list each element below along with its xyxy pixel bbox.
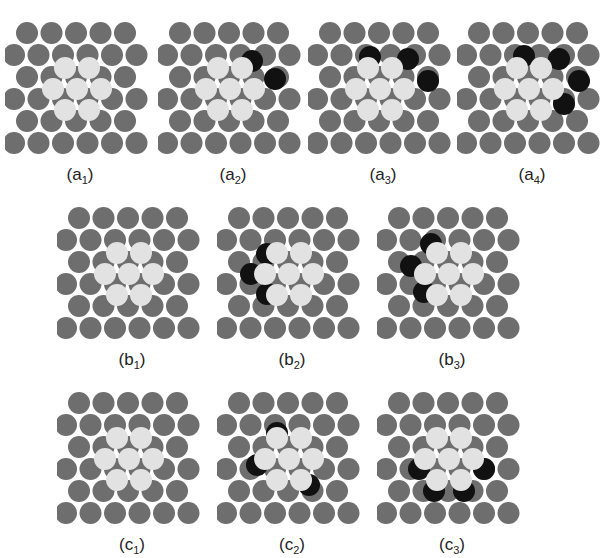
island-atom (130, 242, 152, 264)
substrate-atom (326, 295, 348, 317)
substrate-atom (289, 502, 311, 524)
substrate-atom (93, 207, 115, 229)
substrate-atom (16, 66, 38, 88)
panel-label: (a3) (308, 165, 458, 186)
island-atom (130, 284, 152, 306)
island-atom (414, 263, 436, 285)
substrate-atom (313, 317, 335, 339)
island-atom (66, 78, 88, 100)
island-atom (357, 57, 379, 79)
panel-b3: (b3) (377, 205, 527, 375)
substrate-atom (368, 22, 390, 44)
substrate-atom (437, 207, 459, 229)
island-atom (542, 78, 564, 100)
substrate-atom (338, 317, 360, 339)
substrate-atom (277, 207, 299, 229)
substrate-atom (429, 44, 451, 66)
substrate-atom (400, 317, 422, 339)
substrate-atom (486, 207, 508, 229)
island-atom (106, 469, 128, 491)
panel-label: (b3) (377, 350, 527, 371)
label-subscript: 3 (385, 174, 391, 186)
island-atom (450, 284, 472, 306)
substrate-atom (114, 22, 136, 44)
substrate-atom (129, 317, 151, 339)
island-atom (426, 284, 448, 306)
substrate-atom (217, 273, 237, 295)
substrate-atom (254, 132, 276, 154)
island-atom (530, 57, 552, 79)
substrate-atom (377, 273, 397, 295)
substrate-atom (253, 392, 275, 414)
substrate-atom (498, 317, 520, 339)
substrate-atom (473, 502, 495, 524)
substrate-atom (413, 207, 435, 229)
island-atom (494, 78, 516, 100)
substrate-atom (158, 44, 178, 66)
substrate-atom (217, 317, 237, 339)
substrate-atom (338, 458, 360, 480)
substrate-atom (417, 22, 439, 44)
island-atom (207, 57, 229, 79)
island-atom (254, 448, 276, 470)
substrate-atom (16, 22, 38, 44)
island-atom (381, 57, 403, 79)
panel-c1: (c1) (57, 390, 207, 558)
substrate-atom (355, 132, 377, 154)
island-atom (290, 284, 312, 306)
label-subscript: 1 (134, 359, 140, 371)
substrate-atom (468, 66, 490, 88)
substrate-atom (473, 414, 495, 436)
substrate-atom (169, 66, 191, 88)
label-letter: c (285, 535, 294, 554)
substrate-atom (553, 132, 575, 154)
island-atom (266, 284, 288, 306)
island-atom (450, 469, 472, 491)
substrate-atom (308, 88, 328, 110)
substrate-atom (498, 502, 520, 524)
label-letter: b (124, 350, 133, 369)
label-subscript: 2 (293, 544, 299, 556)
label-letter: a (225, 165, 234, 184)
island-atom (290, 427, 312, 449)
substrate-atom (279, 88, 301, 110)
substrate-atom (65, 22, 87, 44)
substrate-atom (264, 317, 286, 339)
substrate-atom (126, 88, 148, 110)
island-atom (369, 78, 391, 100)
substrate-atom (517, 22, 539, 44)
substrate-atom (228, 207, 250, 229)
island-atom (357, 99, 379, 121)
substrate-atom (178, 273, 200, 295)
substrate-atom (217, 502, 237, 524)
label-subscript: 2 (235, 174, 241, 186)
substrate-atom (178, 229, 200, 251)
substrate-atom (480, 132, 502, 154)
island-atom (518, 78, 540, 100)
substrate-atom (468, 110, 490, 132)
substrate-atom (377, 317, 397, 339)
substrate-atom (142, 207, 164, 229)
island-atom (381, 99, 403, 121)
island-atom (393, 78, 415, 100)
substrate-atom (473, 229, 495, 251)
substrate-atom (166, 392, 188, 414)
island-atom (290, 242, 312, 264)
island-atom (130, 469, 152, 491)
island-atom (42, 78, 64, 100)
panel-c2: (c2) (217, 390, 367, 558)
substrate-atom (52, 132, 74, 154)
substrate-atom (326, 207, 348, 229)
label-letter: c (125, 535, 134, 554)
substrate-atom (101, 132, 123, 154)
island-atom (54, 99, 76, 121)
substrate-atom (457, 88, 477, 110)
substrate-atom (267, 22, 289, 44)
substrate-atom (480, 44, 502, 66)
substrate-atom (338, 273, 360, 295)
substrate-atom (498, 273, 520, 295)
island-atom (118, 448, 140, 470)
substrate-atom (181, 44, 203, 66)
substrate-atom (578, 132, 600, 154)
label-letter: a (72, 165, 81, 184)
